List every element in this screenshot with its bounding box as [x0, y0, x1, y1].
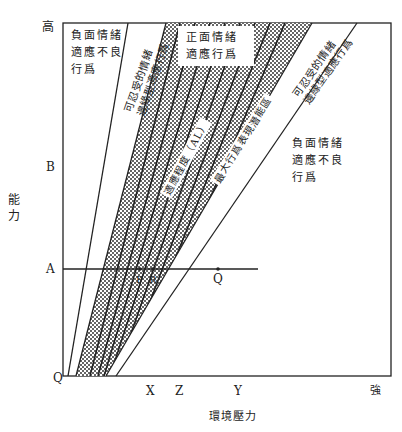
- region-text-line: 負面情緒: [71, 27, 123, 44]
- x-tick-z: Z: [175, 384, 183, 398]
- x-tick-x: X: [146, 384, 155, 398]
- x-axis-strong-label: 強: [370, 384, 381, 398]
- point-p: [138, 267, 142, 271]
- region-text-line: 行爲: [292, 169, 344, 186]
- x-axis-label: 環境壓力: [209, 410, 257, 424]
- region-text-line: 適應不良: [292, 152, 344, 169]
- point-r-label: R: [149, 273, 157, 287]
- region-text-line: 正面情緒: [186, 29, 238, 46]
- point-q-label: Q: [213, 272, 223, 286]
- origin-label: Q: [53, 371, 63, 385]
- region-text-line: 負面情緒: [292, 135, 344, 152]
- region-text-line: 行爲: [71, 61, 123, 78]
- region-bottom-right-negative: 負面情緒 適應不良 行爲: [292, 135, 344, 186]
- region-text-line: 適應行爲: [186, 46, 238, 63]
- point-q: [216, 267, 220, 271]
- region-center-positive: 正面情緒 適應行爲: [186, 29, 238, 63]
- y-tick-a: A: [46, 262, 55, 276]
- diagram-canvas: [0, 0, 402, 432]
- y-tick-b: B: [46, 160, 55, 174]
- point-p-label: P: [136, 273, 143, 287]
- point-r: [151, 267, 155, 271]
- region-top-left-negative: 負面情緒 適應不良 行爲: [71, 27, 123, 78]
- y-axis-high-label: 高: [42, 20, 54, 34]
- y-axis-label: 能力: [8, 192, 22, 224]
- x-tick-y: Y: [234, 384, 242, 398]
- region-text-line: 適應不良: [71, 44, 123, 61]
